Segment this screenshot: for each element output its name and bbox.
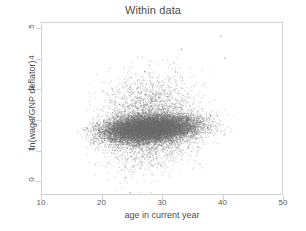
x-tick-mark bbox=[102, 195, 103, 200]
page-title: Within data bbox=[0, 4, 306, 16]
scatter-plot-figure: Within data ln(wage/GNP deflator) age in… bbox=[0, 0, 306, 231]
x-tick-mark bbox=[283, 195, 284, 200]
scatter-points bbox=[42, 23, 282, 194]
y-axis-label: ln(wage/GNP deflator) bbox=[27, 25, 37, 185]
y-tick-mark bbox=[36, 89, 41, 90]
y-tick-mark bbox=[36, 59, 41, 60]
plot-area bbox=[41, 22, 283, 195]
x-tick-mark bbox=[162, 195, 163, 200]
y-tick-label: 0 bbox=[27, 173, 36, 187]
y-tick-mark bbox=[36, 151, 41, 152]
y-tick-label: 5 bbox=[27, 20, 36, 34]
y-tick-label: 1 bbox=[27, 142, 36, 156]
y-tick-label: 2 bbox=[27, 111, 36, 125]
y-tick-label: 4 bbox=[27, 50, 36, 64]
y-tick-label: 3 bbox=[27, 81, 36, 95]
y-tick-mark bbox=[36, 181, 41, 182]
x-tick-mark bbox=[41, 195, 42, 200]
y-tick-mark bbox=[36, 28, 41, 29]
y-tick-mark bbox=[36, 120, 41, 121]
x-axis-label: age in current year bbox=[41, 210, 283, 220]
x-tick-mark bbox=[223, 195, 224, 200]
